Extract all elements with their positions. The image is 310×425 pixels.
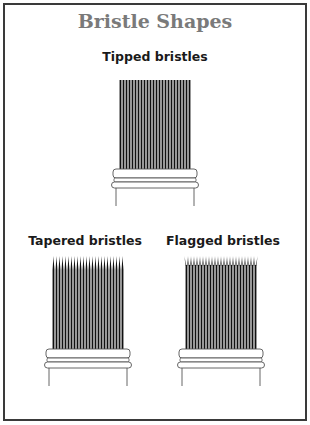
- label-tapered-bristles: Tapered bristles: [10, 233, 160, 248]
- tapered-brush-illustration: [43, 254, 133, 390]
- diagram-title: Bristle Shapes: [0, 10, 310, 32]
- handle: [182, 368, 260, 386]
- label-flagged-bristles: Flagged bristles: [148, 233, 298, 248]
- handle: [116, 188, 194, 206]
- ferrule: [112, 169, 199, 188]
- handle: [49, 368, 127, 386]
- bristles: [120, 80, 191, 170]
- ferrule: [45, 349, 132, 368]
- label-tipped-bristles: Tipped bristles: [0, 49, 310, 64]
- bristles: [53, 256, 124, 350]
- ferrule: [178, 349, 265, 368]
- tipped-brush-illustration: [110, 78, 200, 208]
- bristles: [184, 256, 257, 350]
- flagged-brush-illustration: [176, 254, 266, 390]
